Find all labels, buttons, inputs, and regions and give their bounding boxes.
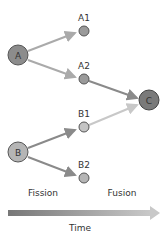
node-A1: A1 [78, 13, 90, 36]
node-C: C [139, 90, 159, 110]
svg-text:A: A [15, 51, 22, 61]
fusion-label: Fusion [108, 188, 137, 198]
svg-text:B2: B2 [78, 160, 90, 170]
node-B2: B2 [78, 160, 90, 183]
svg-text:A1: A1 [78, 13, 90, 23]
svg-text:C: C [146, 96, 152, 106]
svg-text:B: B [15, 148, 21, 158]
node-B: B [8, 142, 28, 162]
node-A2: A2 [78, 61, 90, 84]
fission-fusion-diagram: A A1 A2 C B1 B B2 Fission Fusion Time [0, 0, 163, 235]
time-arrow [8, 206, 160, 220]
node-A: A [8, 45, 28, 65]
svg-text:A2: A2 [78, 61, 90, 71]
time-label: Time [68, 223, 91, 233]
edges [28, 33, 137, 175]
node-B1: B1 [78, 109, 90, 132]
svg-text:B1: B1 [78, 109, 90, 119]
fission-label: Fission [28, 188, 58, 198]
